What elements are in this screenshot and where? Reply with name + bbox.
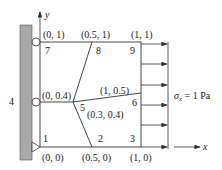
load-label: σx = 1 Pa	[174, 90, 211, 103]
node-9-id: 9	[130, 45, 135, 56]
node-9-coord: (1, 1)	[131, 29, 153, 41]
node-1-coord: (0, 0)	[42, 152, 64, 164]
wall-label: 4	[9, 96, 14, 107]
pin-support	[32, 142, 40, 152]
node-8-coord: (0.5, 1)	[81, 29, 110, 41]
node-2-id: 2	[98, 133, 103, 144]
traction-load	[141, 42, 168, 149]
x-axis-label: x	[202, 141, 208, 152]
fem-mesh-diagram: y x σx = 1 Pa 4 1 2 3 5 6 7 8 9 (0, 0) (…	[0, 0, 222, 170]
node-3-coord: (1, 0)	[130, 152, 152, 164]
node-7-id: 7	[45, 45, 50, 56]
y-axis-label: y	[44, 9, 50, 20]
node-6-id: 6	[132, 97, 137, 108]
roller-support-top	[32, 38, 40, 46]
node-5-coord: (0.3, 0.4)	[87, 109, 124, 121]
node-8-id: 8	[96, 45, 101, 56]
fixed-wall	[20, 25, 32, 160]
node-1-id: 1	[43, 133, 48, 144]
node-3-id: 3	[130, 133, 135, 144]
roller-support-mid	[32, 98, 40, 106]
node-6-coord: (1, 0.5)	[100, 85, 129, 97]
node-2-coord: (0.5, 0)	[82, 152, 111, 164]
node-4-coord: (0, 0.4)	[42, 90, 71, 102]
node-5-id: 5	[80, 102, 85, 113]
node-7-coord: (0, 1)	[43, 29, 65, 41]
